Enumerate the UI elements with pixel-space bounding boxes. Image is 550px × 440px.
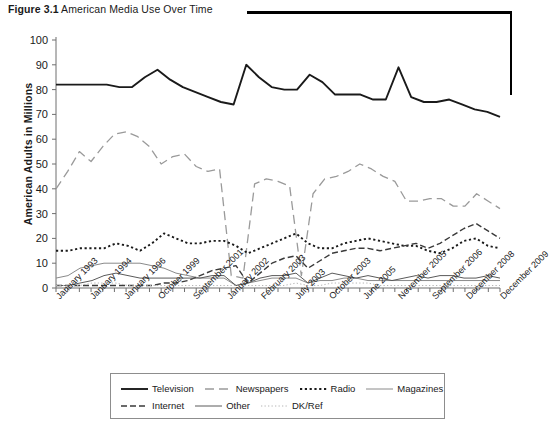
legend-swatch xyxy=(300,385,327,393)
figure-number: Figure 3.1 xyxy=(8,3,59,15)
legend-row: TelevisionNewspapersRadioMagazines xyxy=(121,380,434,397)
figure-title: American Media Use Over Time xyxy=(61,3,213,15)
legend-item-internet: Internet xyxy=(121,400,184,411)
y-tick-label: 70 xyxy=(36,108,48,120)
chart-legend: TelevisionNewspapersRadioMagazinesIntern… xyxy=(110,373,445,419)
legend-item-magazines: Magazines xyxy=(366,383,443,394)
y-tick-label: 40 xyxy=(36,183,48,195)
legend-swatch xyxy=(261,402,288,410)
legend-row: InternetOtherDK/Ref xyxy=(121,397,434,414)
series-line-radio xyxy=(56,233,500,253)
legend-item-other: Other xyxy=(195,400,250,411)
y-tick-label: 60 xyxy=(36,133,48,145)
legend-label: Newspapers xyxy=(236,383,289,394)
legend-item-television: Television xyxy=(121,383,194,394)
legend-swatch xyxy=(121,402,148,410)
y-tick-label: 20 xyxy=(36,232,48,244)
y-tick-label: 90 xyxy=(36,59,48,71)
page-footer-artifact xyxy=(0,428,527,440)
legend-label: Magazines xyxy=(397,383,443,394)
legend-label: Internet xyxy=(152,400,184,411)
header-rule-horizontal xyxy=(247,11,512,14)
legend-item-radio: Radio xyxy=(300,383,356,394)
y-tick-label: 30 xyxy=(36,208,48,220)
legend-swatch xyxy=(195,402,222,410)
series-line-television xyxy=(56,65,500,117)
y-tick-label: 10 xyxy=(36,257,48,269)
y-tick-label: 80 xyxy=(36,84,48,96)
legend-label: Radio xyxy=(331,383,356,394)
x-axis-labels: January 1993January 1994January 1996Octo… xyxy=(0,292,521,364)
y-tick-label: 50 xyxy=(36,158,48,170)
figure-caption: Figure 3.1 American Media Use Over Time xyxy=(8,3,213,15)
legend-item-dk-ref: DK/Ref xyxy=(261,400,323,411)
legend-swatch xyxy=(205,385,232,393)
legend-item-newspapers: Newspapers xyxy=(205,383,289,394)
y-axis-label: American Adults in Millions xyxy=(22,34,34,274)
legend-label: DK/Ref xyxy=(292,400,323,411)
legend-swatch xyxy=(121,385,148,393)
legend-swatch xyxy=(366,385,393,393)
legend-label: Television xyxy=(152,383,194,394)
legend-label: Other xyxy=(226,400,250,411)
